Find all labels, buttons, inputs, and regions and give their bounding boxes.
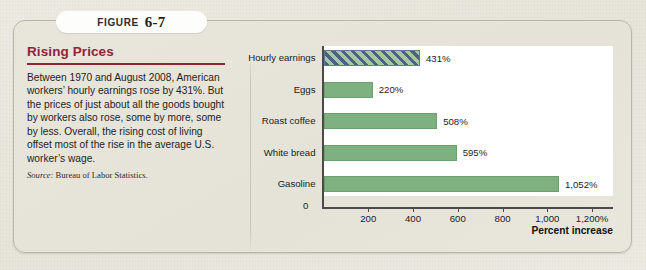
bar-category-label: Eggs bbox=[196, 82, 324, 98]
bar-row: Eggs220% bbox=[324, 82, 404, 98]
bar-chart: Hourly earnings431%Eggs220%Roast coffee5… bbox=[240, 33, 620, 233]
figure-number: 6-7 bbox=[145, 14, 166, 31]
bar bbox=[324, 82, 373, 98]
x-axis-tick-label: 1,000 bbox=[535, 213, 559, 224]
x-axis-tick-label: 400 bbox=[405, 213, 421, 224]
bar-value-label: 431% bbox=[426, 53, 451, 64]
bar-row: White bread595% bbox=[324, 145, 488, 161]
x-axis bbox=[322, 207, 613, 209]
bar bbox=[324, 145, 457, 161]
bar bbox=[324, 50, 420, 66]
source-text: Bureau of Labor Statistics. bbox=[56, 170, 148, 180]
x-axis-title: Percent increase bbox=[531, 225, 613, 236]
x-axis-tick-label: 600 bbox=[450, 213, 466, 224]
bar-row: Gasoline1,052% bbox=[324, 176, 598, 192]
x-axis-tick bbox=[368, 207, 369, 212]
x-axis-tick bbox=[458, 207, 459, 212]
bar-series: Hourly earnings431%Eggs220%Roast coffee5… bbox=[324, 46, 614, 207]
bar-category-label: Hourly earnings bbox=[196, 50, 324, 66]
bar bbox=[324, 176, 559, 192]
bar-category-label: Roast coffee bbox=[196, 113, 324, 129]
bar bbox=[324, 113, 438, 129]
bar-value-label: 595% bbox=[463, 147, 488, 158]
bar-category-label: Gasoline bbox=[196, 176, 324, 192]
x-axis-tick bbox=[592, 207, 593, 212]
x-axis-tick bbox=[503, 207, 504, 212]
figure-number-tab: FIGURE 6-7 bbox=[56, 11, 207, 33]
x-axis-tick-label: 200 bbox=[360, 213, 376, 224]
bar-value-label: 1,052% bbox=[565, 179, 598, 190]
source-label: Source: bbox=[27, 170, 53, 180]
x-tick-zero: 0 bbox=[303, 200, 308, 211]
bar-value-label: 508% bbox=[443, 116, 468, 127]
figure-label: FIGURE bbox=[97, 17, 138, 28]
x-axis-tick-label: 1,200% bbox=[576, 213, 609, 224]
x-axis-tick bbox=[413, 207, 414, 212]
x-axis-tick bbox=[547, 207, 548, 212]
bar-category-label: White bread bbox=[196, 145, 324, 161]
x-axis-tick-label: 800 bbox=[495, 213, 511, 224]
bar-row: Hourly earnings431% bbox=[324, 50, 451, 66]
bar-value-label: 220% bbox=[379, 84, 404, 95]
bar-row: Roast coffee508% bbox=[324, 113, 468, 129]
